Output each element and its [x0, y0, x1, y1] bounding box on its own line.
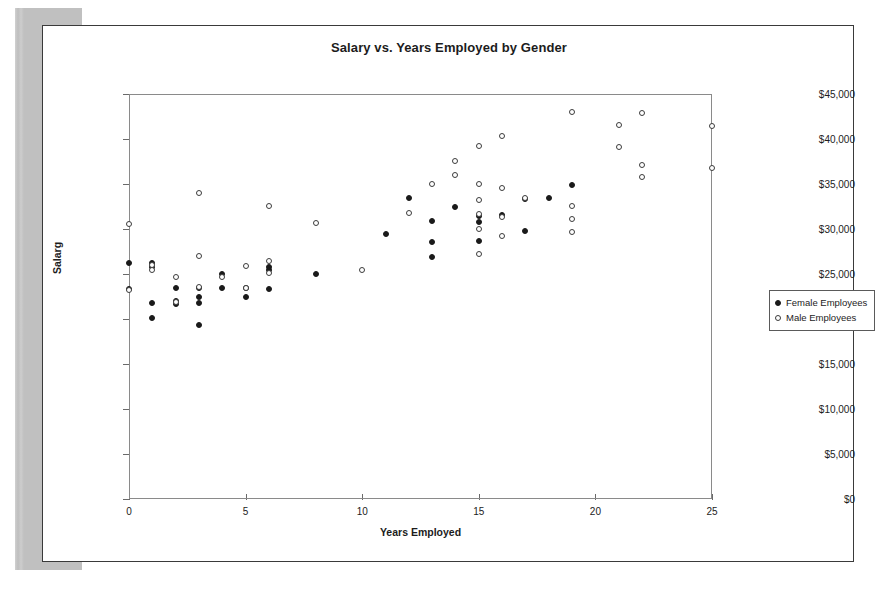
y-tick-label: $10,000	[793, 404, 855, 415]
x-tick-label: 5	[226, 506, 266, 517]
data-point	[196, 322, 202, 328]
data-point	[569, 203, 575, 209]
data-point	[569, 216, 575, 222]
y-tick-label: $25,000	[793, 269, 855, 280]
chart-legend: Female EmployeesMale Employees	[769, 290, 875, 331]
data-point	[709, 165, 715, 171]
data-point	[406, 195, 412, 201]
y-tick-label: $30,000	[793, 224, 855, 235]
y-tick-label: $40,000	[793, 134, 855, 145]
x-tick-label: 10	[342, 506, 382, 517]
data-point	[569, 109, 575, 115]
x-tick-label: 0	[109, 506, 149, 517]
data-point	[196, 300, 202, 306]
legend-item-label: Female Employees	[786, 297, 867, 308]
data-point	[616, 122, 622, 128]
data-point	[452, 172, 458, 178]
data-point	[452, 158, 458, 164]
y-tick-label: $45,000	[793, 89, 855, 100]
x-tick-label: 25	[692, 506, 732, 517]
data-point	[476, 219, 482, 225]
data-point	[499, 133, 505, 139]
data-point	[173, 274, 179, 280]
data-point	[476, 251, 482, 257]
y-tick-label: $0	[793, 494, 855, 505]
data-point	[313, 271, 319, 277]
data-point	[499, 185, 505, 191]
data-point	[499, 214, 505, 220]
data-point	[266, 203, 272, 209]
data-point	[429, 181, 435, 187]
data-point	[429, 218, 435, 224]
data-point	[149, 315, 155, 321]
data-point	[476, 238, 482, 244]
x-tick-label: 20	[575, 506, 615, 517]
data-point	[429, 239, 435, 245]
data-point	[126, 287, 132, 293]
legend-item: Female Employees	[775, 295, 867, 310]
data-point	[616, 144, 622, 150]
y-tick-label: $5,000	[793, 449, 855, 460]
data-point	[639, 110, 645, 116]
data-point	[149, 300, 155, 306]
data-point	[243, 263, 249, 269]
data-point	[243, 294, 249, 300]
data-point	[476, 226, 482, 232]
data-point	[196, 284, 202, 290]
data-point	[639, 174, 645, 180]
data-point	[522, 195, 528, 201]
data-point	[126, 260, 132, 266]
data-point	[149, 267, 155, 273]
data-point	[429, 254, 435, 260]
document-page: Salary vs. Years Employed by Gender Sala…	[42, 25, 854, 562]
legend-item-label: Male Employees	[786, 312, 856, 323]
y-axis-title: Salarg	[51, 242, 63, 274]
data-point	[476, 181, 482, 187]
data-point	[499, 233, 505, 239]
y-tick-label: $15,000	[793, 359, 855, 370]
legend-marker-icon	[775, 315, 781, 321]
legend-marker-icon	[775, 300, 781, 306]
chart-title: Salary vs. Years Employed by Gender	[43, 40, 855, 55]
data-point	[476, 211, 482, 217]
data-point	[569, 229, 575, 235]
data-point	[266, 270, 272, 276]
data-point	[266, 258, 272, 264]
data-point	[219, 285, 225, 291]
x-axis-title: Years Employed	[129, 526, 712, 538]
data-point	[452, 204, 458, 210]
data-point	[522, 228, 528, 234]
scatter-chart: Salary vs. Years Employed by Gender Sala…	[43, 26, 855, 563]
legend-item: Male Employees	[775, 310, 867, 325]
x-tick-label: 15	[459, 506, 499, 517]
data-point	[546, 195, 552, 201]
data-point	[476, 197, 482, 203]
data-point	[173, 299, 179, 305]
data-point	[359, 267, 365, 273]
data-point	[173, 285, 179, 291]
data-point	[639, 162, 645, 168]
data-point	[196, 253, 202, 259]
data-point	[476, 143, 482, 149]
data-point	[243, 285, 249, 291]
data-point	[313, 220, 319, 226]
x-tick-mark	[712, 494, 713, 500]
data-point	[196, 190, 202, 196]
data-point	[126, 221, 132, 227]
data-point	[383, 231, 389, 237]
data-point	[569, 182, 575, 188]
data-point	[406, 210, 412, 216]
y-tick-label: $35,000	[793, 179, 855, 190]
data-point	[219, 274, 225, 280]
data-point	[266, 286, 272, 292]
data-point	[709, 123, 715, 129]
plot-data-area	[129, 94, 712, 499]
